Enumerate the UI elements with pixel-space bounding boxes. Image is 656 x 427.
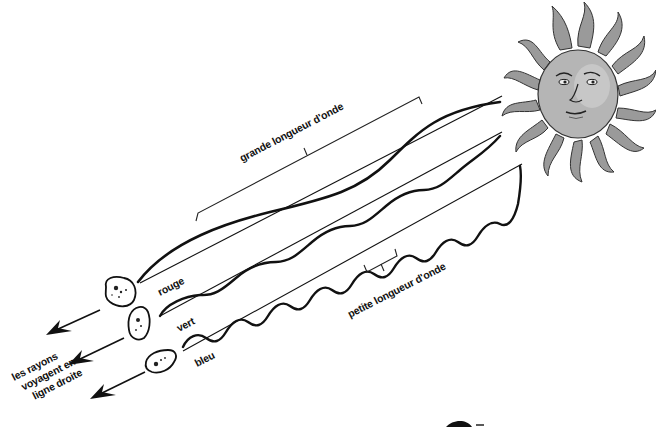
long-wavelength-label: grande longueur d'onde bbox=[237, 100, 345, 164]
straight-line-note: les rayons voyagent en ligne droite bbox=[9, 343, 84, 406]
short-wavelength-bracket bbox=[364, 249, 397, 272]
ray-label-red: rouge bbox=[155, 274, 186, 298]
receptor-cell-blue bbox=[146, 350, 176, 373]
blue-ray bbox=[183, 164, 522, 351]
arrow-icon bbox=[46, 310, 100, 335]
receptor-cell-green bbox=[128, 307, 149, 340]
receptor-cell-red bbox=[106, 277, 136, 306]
ray-label-blue: bleu bbox=[192, 349, 216, 369]
short-wavelength-label: petite longueur d'onde bbox=[345, 260, 447, 320]
red-ray bbox=[138, 96, 502, 283]
sun-face-icon bbox=[502, 2, 656, 182]
arrow-icon bbox=[90, 372, 145, 399]
light-wavelength-diagram: grande longueur d'onde rouge vert bleu p… bbox=[0, 0, 656, 427]
cropped-shape bbox=[446, 421, 472, 427]
ray-label-green: vert bbox=[174, 314, 197, 333]
arrow-icon bbox=[68, 338, 124, 365]
